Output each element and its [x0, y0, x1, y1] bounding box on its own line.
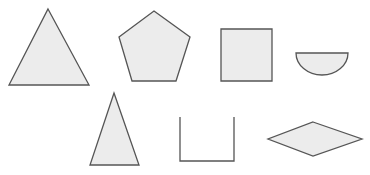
triangle-equilateral-shape	[9, 9, 89, 85]
semicircle-shape	[296, 53, 348, 75]
rhombus-shape	[268, 122, 362, 156]
square-shape	[221, 29, 272, 81]
open-box-shape	[180, 117, 234, 161]
shapes-diagram	[0, 0, 370, 175]
pentagon-shape	[119, 11, 190, 81]
triangle-isosceles-shape	[90, 93, 139, 165]
